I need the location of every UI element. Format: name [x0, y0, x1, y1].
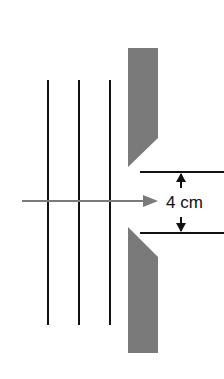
arrow-head-icon [143, 195, 158, 207]
arrow-down-icon [176, 223, 186, 232]
gap-width-label: 4 cm [166, 193, 203, 212]
barrier-bottom [128, 227, 158, 353]
incident-arrow [22, 195, 158, 207]
diffraction-diagram: 4 cm [0, 0, 224, 379]
wavefronts [48, 80, 110, 325]
barrier-top [128, 48, 158, 167]
arrow-up-icon [176, 173, 186, 182]
